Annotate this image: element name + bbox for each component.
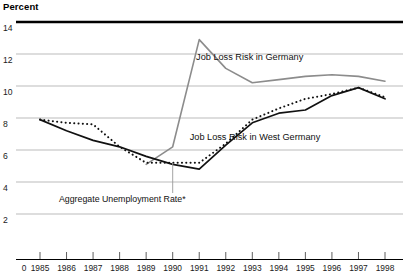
y-tick-label: 4 [3,183,8,193]
series-line [40,88,385,163]
y-tick-label: 2 [3,215,8,225]
annotation-label: Aggregate Unemployment Rate* [59,194,186,204]
series-line [40,88,385,170]
chart-container: Percent 1412108642 019851986198719881989… [0,0,409,277]
y-tick-label: 14 [3,23,13,33]
x-tick-label: 1994 [270,263,289,273]
x-tick-label: 0 [22,263,27,273]
y-tick-label: 10 [3,87,13,97]
series-inline-label: Job Loss Risk in West Germany [190,132,321,142]
x-tick-label: 1990 [163,263,182,273]
x-axis-group: 0198519861987198819891990199119921993199… [16,252,403,273]
x-tick-label: 1986 [57,263,76,273]
x-tick-label: 1993 [243,263,262,273]
x-tick-label: 1989 [137,263,156,273]
x-tick-label: 1998 [376,263,395,273]
y-tick-label: 12 [3,55,13,65]
x-tick-label: 1987 [84,263,103,273]
x-tick-label: 1995 [296,263,315,273]
y-tick-label: 6 [3,151,8,161]
x-tick-label: 1992 [216,263,235,273]
x-tick-label: 1991 [190,263,209,273]
x-tick-label: 1996 [323,263,342,273]
y-tick-label: 8 [3,119,8,129]
x-tick-label: 1988 [110,263,129,273]
x-tick-label: 1985 [31,263,50,273]
x-tick-label: 1997 [349,263,368,273]
y-tick-labels: 1412108642 [3,23,13,225]
chart-canvas: 1412108642 01985198619871988198919901991… [0,0,409,277]
series-inline-label: Job Loss Risk in Germany [196,52,304,62]
